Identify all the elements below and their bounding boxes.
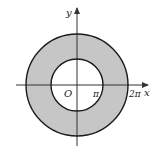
origin-label: O bbox=[64, 88, 72, 99]
x-axis-label: x bbox=[144, 87, 150, 98]
annulus-diagram: y x O π 2π bbox=[0, 0, 160, 155]
outer-radius-label: 2π bbox=[128, 89, 142, 99]
inner-radius-label: π bbox=[92, 89, 100, 99]
y-axis-label: y bbox=[65, 7, 72, 18]
